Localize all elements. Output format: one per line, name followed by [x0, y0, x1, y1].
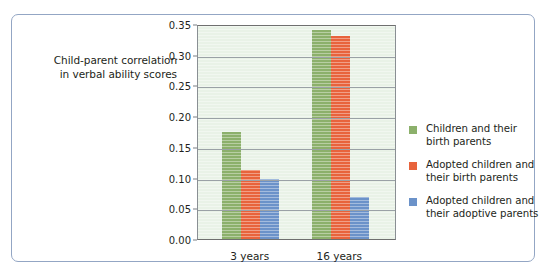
legend-swatch-icon: [409, 126, 417, 134]
y-axis-title-line-1: Child-parent correlation: [22, 53, 177, 67]
y-tick-label: 0.10: [169, 173, 191, 184]
y-tick-label: 0.00: [169, 235, 191, 246]
figure-panel: Child-parent correlation in verbal abili…: [11, 14, 535, 262]
gridline: [198, 149, 395, 150]
y-tick-mark: [193, 209, 197, 210]
gridline: [198, 210, 395, 211]
legend-item: Children and theirbirth parents: [409, 122, 547, 148]
plot-wrapper: 0.000.050.100.150.200.250.300.35 3 years…: [197, 25, 396, 240]
y-tick-label: 0.30: [169, 50, 191, 61]
y-tick-mark: [193, 147, 197, 148]
legend-label-line-2: birth parents: [426, 135, 547, 148]
gridline: [198, 118, 395, 119]
x-axis-category-label: 3 years: [230, 250, 269, 262]
y-tick-mark: [193, 55, 197, 56]
bar: [260, 179, 279, 239]
legend-swatch-icon: [409, 162, 417, 170]
bar: [312, 30, 331, 239]
y-tick-label: 0.15: [169, 142, 191, 153]
legend-label: Adopted children andtheir birth parents: [426, 158, 547, 184]
y-tick-label: 0.20: [169, 112, 191, 123]
bar: [331, 36, 350, 239]
legend-label-line-1: Children and their: [426, 122, 547, 135]
y-tick-mark: [193, 86, 197, 87]
legend-item: Adopted children andtheir birth parents: [409, 158, 547, 184]
legend-label: Children and theirbirth parents: [426, 122, 547, 148]
y-tick-mark: [193, 25, 197, 26]
legend-label: Adopted children andtheir adoptive paren…: [426, 194, 547, 220]
x-axis-category-label: 16 years: [316, 250, 362, 262]
gridline: [198, 180, 395, 181]
y-axis-title-line-2: in verbal ability scores: [22, 67, 177, 81]
y-axis-title: Child-parent correlation in verbal abili…: [22, 53, 177, 81]
legend-swatch-icon: [409, 198, 417, 206]
plot-area: [197, 25, 396, 240]
legend-label-line-2: their birth parents: [426, 171, 547, 184]
gridline: [198, 87, 395, 88]
gridline: [198, 57, 395, 58]
legend: Children and theirbirth parentsAdopted c…: [409, 122, 547, 230]
legend-item: Adopted children andtheir adoptive paren…: [409, 194, 547, 220]
legend-label-line-1: Adopted children and: [426, 194, 547, 207]
y-tick-label: 0.25: [169, 81, 191, 92]
y-tick-mark: [193, 117, 197, 118]
bar: [222, 132, 241, 240]
y-tick-mark: [193, 240, 197, 241]
legend-label-line-1: Adopted children and: [426, 158, 547, 171]
bar: [350, 197, 369, 239]
y-tick-label: 0.35: [169, 20, 191, 31]
y-tick-mark: [193, 178, 197, 179]
y-tick-label: 0.05: [169, 204, 191, 215]
legend-label-line-2: their adoptive parents: [426, 207, 547, 220]
